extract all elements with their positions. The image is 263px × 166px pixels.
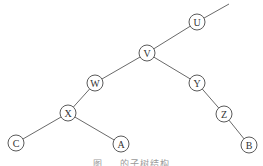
node-label: C [13,138,20,149]
node-u: U [189,14,205,30]
node-x: X [60,105,76,121]
edge-u-v [147,22,197,53]
node-label: V [143,48,151,59]
edge-v-w [95,53,147,83]
node-b: B [241,137,257,153]
edge-v-y [147,53,197,83]
node-w: W [87,75,103,91]
node-a: A [113,136,129,152]
node-label: B [246,140,253,151]
nodes-layer: UVWYXZCAB [8,14,257,153]
node-label: Y [193,78,200,89]
edges-layer [16,4,249,145]
edge-x-a [68,113,121,144]
tree-diagram: UVWYXZCAB [0,0,263,166]
node-y: Y [189,75,205,91]
node-label: X [64,108,72,119]
figure-caption: 图 … 的子树结构 [0,157,263,166]
node-label: U [193,17,201,28]
node-label: W [90,78,100,89]
node-label: Z [221,109,227,120]
node-label: A [117,139,125,150]
node-z: Z [216,106,232,122]
node-c: C [8,135,24,151]
edge-x-c [16,113,68,143]
node-v: V [139,45,155,61]
